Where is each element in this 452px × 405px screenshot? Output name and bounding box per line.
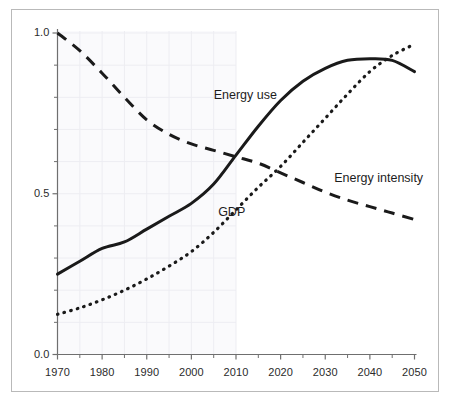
x-tick-label: 1970 xyxy=(36,366,80,378)
x-tick-label: 1980 xyxy=(80,366,124,378)
x-tick-label: 2020 xyxy=(259,366,303,378)
series-annotation-energy-intensity: Energy intensity xyxy=(334,171,423,185)
series-annotation-energy-use: Energy use xyxy=(214,88,277,102)
chart-plot-area xyxy=(0,0,452,405)
x-tick-label: 2050 xyxy=(393,366,437,378)
x-tick-label: 2010 xyxy=(214,366,258,378)
x-tick-label: 1990 xyxy=(125,366,169,378)
x-tick-label: 2040 xyxy=(348,366,392,378)
x-tick-label: 2030 xyxy=(303,366,347,378)
y-tick-label: 1.0 xyxy=(18,26,50,38)
y-tick-label: 0.0 xyxy=(18,348,50,360)
series-annotation-gdp: GDP xyxy=(218,205,245,219)
chart-figure: 1.00.50.0 197019801990200020102020203020… xyxy=(0,0,452,405)
x-tick-label: 2000 xyxy=(169,366,213,378)
y-tick-label: 0.5 xyxy=(18,187,50,199)
